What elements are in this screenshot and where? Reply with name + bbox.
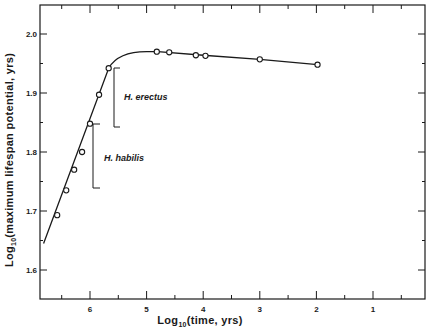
x-axis-ticks [62, 5, 402, 299]
data-point [315, 62, 320, 67]
x-tick-label: 6 [88, 305, 93, 314]
data-point [203, 53, 208, 58]
x-tick-label: 5 [144, 305, 149, 314]
y-tick-label: 1.9 [26, 89, 38, 98]
habilis-bracket [93, 124, 100, 188]
x-tick-label: 3 [258, 305, 263, 314]
habilis-label: H. habilis [104, 153, 144, 163]
data-point [64, 188, 69, 193]
data-points [55, 49, 321, 218]
y-axis-tick-labels: 1.61.71.81.92.0 [26, 30, 38, 275]
x-tick-label: 1 [371, 305, 376, 314]
y-tick-label: 1.8 [26, 148, 38, 157]
data-point [257, 57, 262, 62]
y-axis-ticks [40, 34, 425, 270]
erectus-label: H. erectus [124, 92, 168, 102]
erectus-bracket [114, 68, 120, 127]
data-point [106, 66, 111, 71]
y-tick-label: 1.6 [26, 266, 38, 275]
y-tick-label: 1.7 [26, 207, 38, 216]
data-point [154, 49, 159, 54]
data-point [87, 121, 92, 126]
data-point [96, 92, 101, 97]
fitted-curve [44, 52, 318, 244]
x-tick-label: 4 [201, 305, 206, 314]
data-point [193, 53, 198, 58]
y-tick-label: 2.0 [26, 30, 38, 39]
data-point [167, 50, 172, 55]
data-point [72, 167, 77, 172]
x-tick-label: 2 [314, 305, 319, 314]
plot-frame [40, 5, 425, 299]
x-axis-tick-labels: 654321 [88, 305, 376, 314]
x-axis-title: Log10(time, yrs) [157, 314, 242, 328]
data-point [79, 149, 84, 154]
y-axis-title: Log10(maximum lifespan potential, yrs) [3, 53, 17, 267]
data-point [55, 213, 60, 218]
lifespan-chart: 654321 1.61.71.81.92.0 H. erectus H. hab… [0, 0, 429, 334]
